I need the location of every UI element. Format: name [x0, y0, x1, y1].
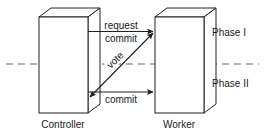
two-phase-commit-diagram: request commit vote commit Controller Wo… — [0, 0, 265, 140]
message-label-request: request — [104, 20, 137, 31]
phase-label-two: Phase II — [212, 78, 249, 89]
node-label-worker: Worker — [163, 119, 195, 130]
phase-label-one: Phase I — [212, 27, 246, 38]
worker-box-side-face — [204, 8, 216, 113]
message-label-commit-phase-two: commit — [105, 94, 137, 105]
worker-box — [155, 8, 216, 113]
controller-box-front-face — [39, 17, 88, 113]
controller-box — [39, 8, 100, 113]
controller-box-side-face — [88, 8, 100, 113]
message-label-commit-phase-one: commit — [105, 33, 137, 44]
worker-box-front-face — [155, 17, 204, 113]
node-label-controller: Controller — [41, 119, 84, 130]
